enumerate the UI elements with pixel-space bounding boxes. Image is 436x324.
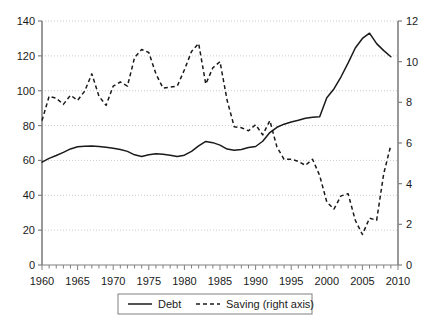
x-axis-tick-label: 2000: [315, 275, 339, 287]
legend-label-saving: Saving (right axis): [226, 298, 314, 310]
right-axis-tick-label: 4: [406, 178, 412, 190]
x-axis-tick-label: 1965: [65, 275, 89, 287]
chart-root: 020406080100120140 024681012 19601965197…: [0, 0, 436, 324]
right-axis-tick-label: 8: [406, 96, 412, 108]
left-axis-tick-label: 80: [23, 120, 35, 132]
x-axis-tick-label: 1970: [101, 275, 125, 287]
line-chart: 020406080100120140 024681012 19601965197…: [0, 0, 436, 324]
left-axis-tick-label: 120: [17, 50, 35, 62]
right-axis-tick-label: 0: [406, 259, 412, 271]
x-axis-tick-labels: 1960196519701975198019851990199520002005…: [30, 275, 410, 287]
chart-legend: DebtSaving (right axis): [118, 294, 314, 314]
x-axis-tick-label: 1980: [172, 275, 196, 287]
x-axis-tick-label: 2005: [350, 275, 374, 287]
left-axis-tick-label: 20: [23, 224, 35, 236]
left-axis-tick-label: 140: [17, 15, 35, 27]
x-axis-tick-label: 1960: [30, 275, 54, 287]
left-axis-tick-label: 0: [29, 259, 35, 271]
right-axis-tick-label: 6: [406, 137, 412, 149]
x-axis-tick-label: 1975: [137, 275, 161, 287]
right-axis-tick-label: 2: [406, 218, 412, 230]
left-axis-tick-label: 60: [23, 154, 35, 166]
right-axis-tick-label: 12: [406, 15, 418, 27]
right-axis-tick-label: 10: [406, 56, 418, 68]
x-axis-tick-label: 1990: [243, 275, 267, 287]
left-axis-tick-label: 100: [17, 85, 35, 97]
x-axis-tick-label: 1985: [208, 275, 232, 287]
x-axis-tick-label: 1995: [279, 275, 303, 287]
left-axis-tick-label: 40: [23, 189, 35, 201]
legend-label-debt: Debt: [158, 298, 181, 310]
x-axis-tick-label: 2010: [386, 275, 410, 287]
